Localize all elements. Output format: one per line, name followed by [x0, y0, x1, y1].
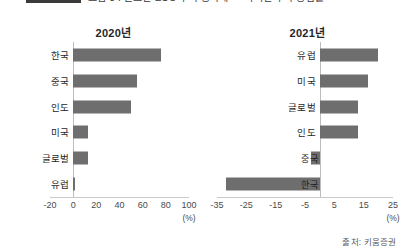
x-tick-15: 15: [359, 200, 369, 210]
bar: [73, 74, 137, 87]
x-tick-60: 60: [138, 200, 148, 210]
x-tick-100: 100: [181, 200, 196, 210]
bar-row: 유럽: [203, 42, 406, 68]
bar-row: 인도: [203, 120, 406, 146]
x-axis-2021: -35-25-15-551525(%): [203, 197, 406, 227]
x-tick--5: -5: [301, 200, 309, 210]
chart-title-2021: 2021년: [203, 24, 406, 40]
x-tick--25: -25: [240, 200, 253, 210]
chart-panel-2021: 2021년 유럽미국글로벌인도중국한국 -35-25-15-551525(%): [203, 14, 406, 236]
category-label-한국: 한국: [292, 178, 318, 191]
bar-row: 글로벌: [203, 94, 406, 120]
bar: [73, 126, 88, 139]
category-label-인도: 인도: [51, 100, 69, 114]
bar: [73, 100, 131, 113]
x-axis-2020: -20020406080100(%): [0, 197, 203, 227]
bar-row: 중국: [203, 145, 406, 171]
category-label-글로벌: 글로벌: [288, 100, 315, 114]
bar: [320, 126, 358, 139]
bar: [320, 100, 358, 113]
x-tick-5: 5: [332, 200, 337, 210]
bar-row: 한국: [203, 171, 406, 197]
x-tick-20: 20: [91, 200, 101, 210]
clipped-title-strip: 그림 3 : 글로벌 ESG 투자 증가세 — 지역별 투자 증감률: [0, 0, 406, 11]
category-label-미국: 미국: [51, 125, 69, 139]
x-tick--35: -35: [210, 200, 223, 210]
chart-title-2020: 2020년: [0, 24, 203, 40]
x-tick-40: 40: [114, 200, 124, 210]
bar-row: 한국: [0, 42, 203, 68]
chart-panel-2020: 2020년 한국중국인도미국글로벌유럽 -20020406080100(%): [0, 14, 203, 236]
bar-row: 유럽: [0, 171, 203, 197]
bar: [320, 48, 379, 61]
axis-baseline: [50, 197, 189, 198]
axis-baseline: [217, 197, 393, 198]
plot-area-2020: 한국중국인도미국글로벌유럽: [0, 42, 203, 197]
legend-swatch-icon: [26, 0, 81, 3]
bar-row: 중국: [0, 68, 203, 94]
category-label-인도: 인도: [297, 125, 315, 139]
category-label-중국: 중국: [51, 74, 69, 88]
category-label-한국: 한국: [51, 48, 69, 62]
bar-row: 미국: [0, 120, 203, 146]
x-axis-unit: (%): [386, 213, 399, 223]
x-axis-unit: (%): [182, 213, 195, 223]
bar-row: 글로벌: [0, 145, 203, 171]
category-label-글로벌: 글로벌: [42, 151, 69, 165]
source-note: 출처: 키움증권: [342, 235, 396, 247]
category-label-미국: 미국: [297, 74, 315, 88]
category-label-유럽: 유럽: [51, 177, 69, 191]
bar-row: 미국: [203, 68, 406, 94]
x-tick-25: 25: [388, 200, 398, 210]
category-label-유럽: 유럽: [297, 48, 315, 62]
bar: [73, 152, 88, 165]
bar: [73, 178, 75, 191]
bar-row: 인도: [0, 94, 203, 120]
x-tick--20: -20: [43, 200, 56, 210]
bar: [320, 74, 368, 87]
x-tick--15: -15: [269, 200, 282, 210]
clipped-title-text: 그림 3 : 글로벌 ESG 투자 증가세 — 지역별 투자 증감률: [88, 0, 324, 4]
x-tick-80: 80: [161, 200, 171, 210]
figure-root: 그림 3 : 글로벌 ESG 투자 증가세 — 지역별 투자 증감률 2020년…: [0, 0, 406, 252]
x-tick-0: 0: [71, 200, 76, 210]
bar: [73, 48, 161, 61]
category-label-중국: 중국: [292, 152, 318, 165]
plot-area-2021: 유럽미국글로벌인도중국한국: [203, 42, 406, 197]
